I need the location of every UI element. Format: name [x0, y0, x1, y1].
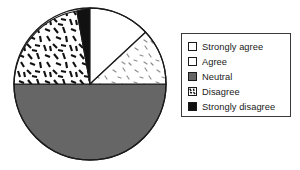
white-swatch-icon — [188, 42, 197, 51]
gray-swatch-icon — [188, 72, 197, 81]
legend-label: Strongly disagree — [202, 102, 275, 112]
dash-swatch-icon — [188, 87, 197, 96]
legend-item-neutral: Neutral — [188, 69, 290, 84]
speckle-swatch-icon — [188, 57, 197, 66]
black-swatch-icon — [188, 102, 197, 111]
pie-chart-screenshot: Strongly agree Agree Neutral — [0, 0, 300, 170]
legend-label: Agree — [202, 57, 227, 67]
legend-item-strongly-disagree: Strongly disagree — [188, 99, 290, 114]
legend-item-strongly-agree: Strongly agree — [188, 39, 290, 54]
pie-slice-neutral — [14, 84, 166, 160]
legend-item-agree: Agree — [188, 54, 290, 69]
pie-chart-svg — [0, 0, 180, 170]
legend-label: Neutral — [202, 72, 232, 82]
pie-chart — [0, 0, 180, 170]
legend: Strongly agree Agree Neutral — [181, 33, 291, 117]
legend-label: Strongly agree — [202, 42, 263, 52]
legend-item-disagree: Disagree — [188, 84, 290, 99]
legend-label: Disagree — [202, 87, 240, 97]
